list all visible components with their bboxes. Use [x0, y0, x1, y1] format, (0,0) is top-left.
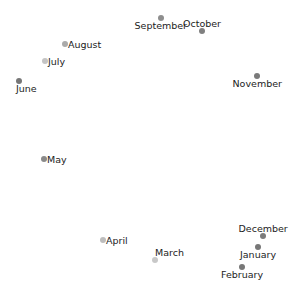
point-label-july: July — [48, 56, 65, 67]
point-label-november: November — [233, 78, 282, 89]
point-label-march: March — [155, 247, 184, 258]
point-label-april: April — [106, 235, 128, 246]
point-label-february: February — [221, 269, 263, 280]
point-label-december: December — [239, 223, 288, 234]
point-label-october: October — [183, 18, 221, 29]
scatter-plot: JuneJulyAugustSeptemberOctoberNovemberDe… — [0, 0, 308, 295]
point-label-may: May — [47, 154, 67, 165]
point-label-january: January — [240, 249, 276, 260]
point-label-june: June — [16, 83, 37, 94]
point-label-august: August — [68, 39, 101, 50]
point-label-september: September — [135, 20, 188, 31]
